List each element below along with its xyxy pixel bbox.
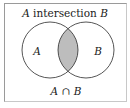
venn-diagram: A intersection B A B A ∩ B	[0, 0, 130, 108]
set-b-label: B	[93, 45, 102, 57]
diagram-title: A intersection B	[21, 7, 108, 19]
set-a-label: A	[32, 45, 41, 57]
diagram-caption: A ∩ B	[50, 85, 82, 97]
